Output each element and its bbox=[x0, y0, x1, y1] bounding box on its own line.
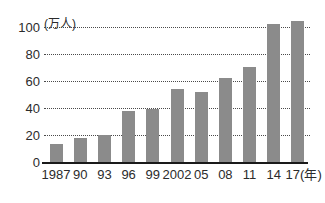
x-axis-tick-label: 08 bbox=[218, 168, 232, 182]
y-axis-tick-label: 0 bbox=[33, 156, 40, 169]
y-axis-tick-label: 40 bbox=[26, 101, 40, 114]
bar bbox=[219, 78, 232, 162]
bar bbox=[98, 135, 111, 162]
x-axis-tick-label: 99 bbox=[146, 168, 160, 182]
bar bbox=[291, 21, 304, 162]
x-axis-tick-label: 14 bbox=[266, 168, 280, 182]
y-axis: 020406080100 bbox=[0, 0, 40, 203]
x-axis-tick-label: 90 bbox=[73, 168, 87, 182]
bar bbox=[243, 67, 256, 162]
y-axis-tick-label: 80 bbox=[26, 47, 40, 60]
x-axis-tick-label: 2002 bbox=[163, 168, 192, 182]
x-axis-tick-label: 05 bbox=[194, 168, 208, 182]
x-axis-tick-label: 93 bbox=[97, 168, 111, 182]
bar bbox=[171, 89, 184, 162]
bar bbox=[74, 138, 87, 162]
bar bbox=[146, 109, 159, 162]
bar bbox=[195, 92, 208, 162]
x-axis-tick-label: 11 bbox=[243, 168, 257, 182]
x-axis-line bbox=[42, 162, 308, 164]
y-axis-tick-label: 20 bbox=[26, 128, 40, 141]
bar bbox=[50, 144, 63, 162]
y-axis-tick-label: 100 bbox=[18, 20, 40, 33]
x-axis: 19879093969920020508111417(年) bbox=[44, 168, 314, 190]
x-axis-tick-label: 1987 bbox=[42, 168, 71, 182]
bar bbox=[122, 111, 135, 162]
plot-area bbox=[44, 16, 310, 162]
bar bbox=[267, 24, 280, 162]
bar-chart: 020406080100 (万人) 1987909396992002050811… bbox=[0, 0, 325, 203]
x-axis-tick-label: 17(年) bbox=[286, 168, 322, 182]
bars-group bbox=[44, 16, 310, 162]
y-axis-tick-label: 60 bbox=[26, 74, 40, 87]
x-axis-tick-label: 96 bbox=[121, 168, 135, 182]
